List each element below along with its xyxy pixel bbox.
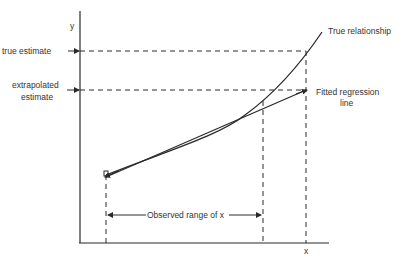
true-estimate-label: true estimate: [2, 46, 51, 56]
observed-range-label: Observed range of x: [147, 210, 225, 220]
x-axis-label: x: [304, 246, 309, 256]
y-axis-label: y: [70, 21, 75, 31]
fitted-regression-line: [106, 91, 305, 178]
true-relationship-curve: [106, 32, 322, 175]
true-relationship-label: True relationship: [328, 26, 391, 36]
extrapolated-estimate-label-2: estimate: [21, 92, 53, 102]
fitted-regression-label-2: line: [340, 98, 354, 108]
extrapolated-estimate-label-1: extrapolated: [12, 80, 59, 90]
fitted-regression-label-1: Fitted regression: [316, 87, 380, 97]
regression-diagram: y x true estimate extrapolated estimate …: [0, 0, 408, 264]
fitted-line-end-arrow: [296, 90, 307, 94]
